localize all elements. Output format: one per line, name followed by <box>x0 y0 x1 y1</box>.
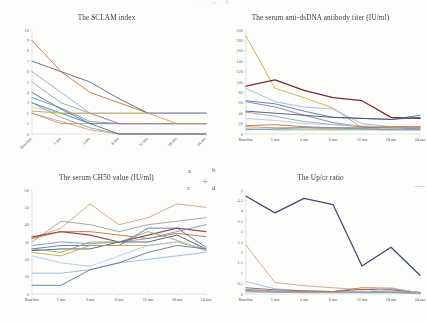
x-tick-label: Baseline <box>239 297 254 302</box>
x-tick-label: 1 mo <box>57 297 66 302</box>
chart-svg-sledai: 012345678910Baseline1 mo3 mo6 mo12 mo18 … <box>0 24 213 167</box>
y-tick-label: 200 <box>236 28 242 33</box>
y-tick-label: 100 <box>236 80 242 85</box>
y-tick-label: 60 <box>239 100 243 105</box>
panel-letter-labels: a b c d + <box>186 166 230 196</box>
y-tick-label: 50 <box>25 205 29 210</box>
y-tick-label: 2.5 <box>237 240 242 245</box>
chart-panel-upcr: The Up/cr ratio 00.511.522.533.544.55Bas… <box>214 166 427 323</box>
chart-title-upcr: The Up/cr ratio <box>214 174 427 182</box>
y-tick-label: 10 <box>25 274 29 279</box>
x-tick-label: 24 mo <box>415 137 426 142</box>
series-line <box>246 101 420 120</box>
y-tick-label: 1.5 <box>237 260 242 265</box>
series-line <box>32 232 206 239</box>
panel-label-a: a <box>188 167 191 174</box>
plot-area-sledai: 012345678910Baseline1 mo3 mo6 mo12 mo18 … <box>0 24 213 167</box>
x-tick-label: 18 mo <box>386 297 397 302</box>
y-tick-label: 4 <box>27 90 30 95</box>
panel-label-b: b <box>212 166 215 173</box>
y-tick-label: 4.5 <box>237 198 242 203</box>
x-tick-label: 12 mo <box>143 297 154 302</box>
y-tick-label: 5 <box>27 80 29 85</box>
y-tick-label: 180 <box>236 38 242 43</box>
panel-label-c: c <box>187 184 190 191</box>
series-line <box>246 111 420 119</box>
panel-label-d: d <box>212 184 215 191</box>
chart-title-dsdna: The serum anti-dsDNA antibody titer (IU/… <box>214 14 427 22</box>
x-tick-label: 24 mo <box>196 136 207 147</box>
x-tick-label: Baseline <box>239 137 254 142</box>
x-tick-label: 24 mo <box>201 297 212 302</box>
y-tick-label: 40 <box>25 222 29 227</box>
chart-panel-ch50: The serum CH50 value (IU/ml) 01020304050… <box>0 166 213 323</box>
y-tick-label: 0.5 <box>237 281 242 286</box>
y-tick-label: 10 <box>25 28 29 33</box>
series-line <box>32 245 206 285</box>
y-tick-label: 2 <box>27 111 29 116</box>
x-tick-label: 24 mo <box>415 297 426 302</box>
y-tick-label: 120 <box>236 69 242 74</box>
plot-area-dsdna: 020406080100120140160180200Baseline1 mo3… <box>214 24 427 167</box>
x-tick-label: 18 mo <box>386 137 397 142</box>
chart-title-sledai: The SCLAM index <box>0 14 213 22</box>
y-tick-label: 30 <box>25 240 29 245</box>
x-tick-label: Baseline <box>19 136 33 150</box>
x-tick-label: 12 mo <box>138 136 149 147</box>
x-tick-label: 1 mo <box>271 297 280 302</box>
x-tick-label: 1 mo <box>52 136 62 146</box>
x-tick-label: 6 mo <box>115 297 124 302</box>
y-tick-label: 40 <box>239 111 243 116</box>
x-tick-label: 3 mo <box>300 137 309 142</box>
y-tick-label: 2 <box>241 250 243 255</box>
crosshair-marker: + <box>199 175 211 187</box>
x-tick-label: 6 mo <box>329 137 338 142</box>
x-tick-label: 6 mo <box>329 297 338 302</box>
series-line <box>32 40 206 113</box>
y-tick-label: 6 <box>27 69 30 74</box>
page-edge-tick <box>415 186 425 187</box>
x-tick-label: 12 mo <box>357 137 368 142</box>
y-tick-label: 8 <box>27 48 29 53</box>
x-tick-label: 3 mo <box>86 297 95 302</box>
y-tick-label: 3 <box>241 229 243 234</box>
series-line <box>246 196 420 275</box>
x-tick-label: 6 mo <box>110 136 120 146</box>
axis-lines <box>32 30 206 134</box>
chart-svg-ch50: 0102030405060Baseline1 mo3 mo6 mo12 mo18… <box>0 184 213 323</box>
figure-page: · · o ,4 The SCLAM index 012345678910Bas… <box>0 0 427 323</box>
chart-svg-dsdna: 020406080100120140160180200Baseline1 mo3… <box>214 24 427 167</box>
x-tick-label: 3 mo <box>81 136 91 146</box>
series-line <box>32 107 206 113</box>
y-tick-label: 5 <box>241 188 243 193</box>
chart-panel-dsdna: The serum anti-dsDNA antibody titer (IU/… <box>214 6 427 167</box>
y-tick-label: 9 <box>27 38 29 43</box>
y-tick-label: 140 <box>236 59 242 64</box>
y-tick-label: 160 <box>236 48 242 53</box>
y-tick-label: 7 <box>27 59 30 64</box>
y-tick-label: 3 <box>27 100 29 105</box>
series-line <box>246 36 420 128</box>
axis-lines <box>246 30 420 134</box>
plot-area-ch50: 0102030405060Baseline1 mo3 mo6 mo12 mo18… <box>0 184 213 323</box>
y-tick-label: 1 <box>27 121 29 126</box>
series-line <box>246 245 420 293</box>
x-tick-label: 12 mo <box>357 297 368 302</box>
y-tick-label: 20 <box>239 121 243 126</box>
y-tick-label: 1 <box>241 271 243 276</box>
x-tick-label: 18 mo <box>172 297 183 302</box>
y-tick-label: 4 <box>241 208 244 213</box>
series-line <box>32 98 206 124</box>
x-tick-label: 1 mo <box>271 137 280 142</box>
x-tick-label: 18 mo <box>167 136 178 147</box>
plot-area-upcr: 00.511.522.533.544.55Baseline1 mo3 mo6 m… <box>214 184 427 323</box>
series-line <box>32 113 206 123</box>
y-tick-label: 80 <box>239 90 243 95</box>
x-tick-label: Baseline <box>25 297 40 302</box>
y-tick-label: 3.5 <box>237 219 242 224</box>
y-tick-label: 60 <box>25 188 29 193</box>
chart-title-ch50: The serum CH50 value (IU/ml) <box>0 174 213 182</box>
chart-panel-sledai: The SCLAM index 012345678910Baseline1 mo… <box>0 6 213 167</box>
chart-svg-upcr: 00.511.522.533.544.55Baseline1 mo3 mo6 m… <box>214 184 427 323</box>
x-tick-label: 3 mo <box>300 297 309 302</box>
